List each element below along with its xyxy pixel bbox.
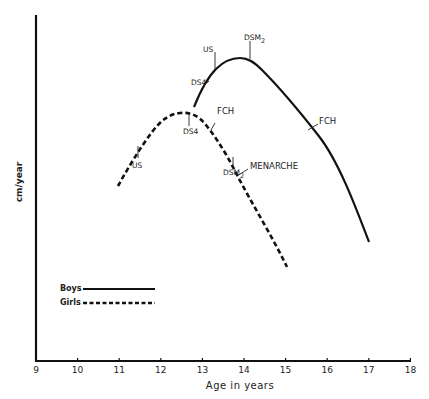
x-tick-11: 11 <box>113 365 124 375</box>
girls-menarche-label: MENARCHE <box>250 161 298 171</box>
girls-dsm-label: DSM2 <box>223 168 244 180</box>
girls-curve <box>118 113 287 267</box>
x-tick-13: 13 <box>197 365 208 375</box>
x-tick-labels: 9 10 11 12 13 14 15 16 17 18 <box>33 365 416 375</box>
boys-dsm-label: DSM2 <box>244 33 265 45</box>
x-axis-title: Age in years <box>206 380 274 391</box>
girls-us-label: US <box>132 161 142 170</box>
y-axis-title: cm/year <box>14 161 24 202</box>
x-tick-18: 18 <box>405 365 417 375</box>
x-tick-10: 10 <box>72 365 84 375</box>
x-tick-9: 9 <box>33 365 39 375</box>
legend-boys-label: Boys <box>60 284 82 293</box>
boys-annotations <box>203 41 318 130</box>
legend-girls-label: Girls <box>60 298 81 307</box>
boys-fch-label: FCH <box>319 116 336 126</box>
x-tick-17: 17 <box>363 365 374 375</box>
growth-velocity-chart: 9 10 11 12 13 14 15 16 17 18 Age in year… <box>0 0 429 399</box>
legend: Boys Girls <box>60 284 155 307</box>
x-tick-16: 16 <box>321 365 333 375</box>
girls-ds4-label: DS4 <box>183 127 199 136</box>
x-tick-14: 14 <box>238 365 250 375</box>
boys-us-label: US <box>203 45 213 54</box>
girls-fch-label: FCH <box>217 106 234 116</box>
boys-curve <box>194 58 369 242</box>
x-tick-15: 15 <box>280 365 291 375</box>
x-tick-12: 12 <box>155 365 166 375</box>
boys-ds4-label: DS4 <box>191 78 207 87</box>
